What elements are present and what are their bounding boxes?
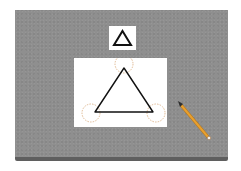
drawn-triangle [74, 58, 167, 127]
vertex-highlight-top[interactable] [115, 58, 133, 73]
pencil-icon [175, 98, 215, 143]
reference-shape-card [109, 26, 136, 50]
pencil-tool[interactable] [175, 98, 215, 143]
reference-triangle-icon [109, 26, 136, 50]
drawing-canvas[interactable] [74, 58, 167, 127]
board-edge [15, 157, 228, 161]
vertex-highlight-left[interactable] [82, 104, 100, 122]
